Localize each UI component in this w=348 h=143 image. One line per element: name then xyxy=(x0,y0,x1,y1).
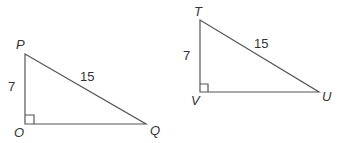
diagram-canvas: P O Q 7 15 T V U 7 15 xyxy=(0,0,348,143)
vertex-label-q: Q xyxy=(150,123,160,138)
triangle-left: P O Q 7 15 xyxy=(8,37,160,140)
right-angle-marker-icon xyxy=(25,115,34,124)
side-label-leg: 7 xyxy=(183,48,190,63)
vertex-label-v: V xyxy=(191,93,201,108)
side-label-leg: 7 xyxy=(8,79,15,94)
vertex-label-t: T xyxy=(194,4,203,19)
right-angle-marker-icon xyxy=(200,84,208,92)
triangle-right-shape xyxy=(200,20,319,92)
triangles-svg: P O Q 7 15 T V U 7 15 xyxy=(0,0,348,143)
vertex-label-u: U xyxy=(322,89,332,104)
side-label-hypotenuse: 15 xyxy=(254,36,268,51)
triangle-left-shape xyxy=(25,54,146,124)
triangle-right: T V U 7 15 xyxy=(183,4,332,108)
vertex-label-o: O xyxy=(14,125,24,140)
side-label-hypotenuse: 15 xyxy=(80,69,94,84)
vertex-label-p: P xyxy=(16,37,25,52)
